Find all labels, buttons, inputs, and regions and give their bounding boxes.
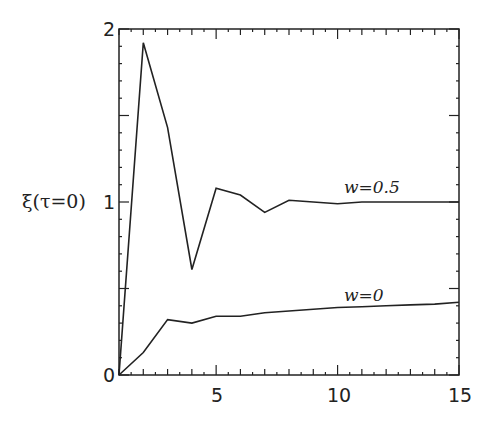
y-tick-label-2: 2 xyxy=(103,18,115,40)
y-tick-label-0: 0 xyxy=(103,364,115,386)
y-axis-label: ξ(τ=0) xyxy=(22,190,86,212)
series-line-w0 xyxy=(119,302,459,375)
x-tick-label-10: 10 xyxy=(327,384,351,406)
y-tick-label-1: 1 xyxy=(103,191,115,213)
series-label-w0: w=0 xyxy=(344,285,384,305)
series-line-w05 xyxy=(119,43,459,375)
x-tick-label-15: 15 xyxy=(448,384,472,406)
data-lines xyxy=(119,43,459,375)
line-chart: ξ(τ=0) 2 1 0 5 10 15 w=0.5 w=0 xyxy=(0,0,494,421)
series-label-w05: w=0.5 xyxy=(344,177,400,197)
x-tick-label-5: 5 xyxy=(211,384,223,406)
